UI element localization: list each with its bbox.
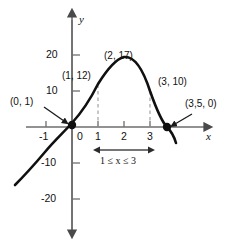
pointer-arrow-origin (44, 107, 64, 121)
y-tick-label-neg10: -10 (41, 157, 56, 168)
x-tick-label-neg1: -1 (39, 131, 48, 142)
range-annotation-label: 1 ≤ x ≤ 3 (100, 155, 136, 166)
point-marker-x-intercept (163, 123, 171, 131)
y-tick-label-neg20: -20 (41, 193, 56, 204)
x-tick-label-2: 2 (121, 131, 127, 142)
point-label-1-12: (1, 12) (62, 70, 91, 81)
point-label-2-17: (2, 17) (104, 50, 133, 61)
y-axis-label: y (79, 14, 84, 25)
point-marker-origin (68, 121, 76, 129)
y-tick-label-20: 20 (46, 49, 58, 60)
y-tick-label-10: 10 (46, 85, 58, 96)
graph-figure: y x -1 0 1 2 3 20 10 -10 -20 (0, 1) (1, … (0, 0, 238, 242)
x-tick-label-0: 0 (77, 131, 83, 142)
curve-path (15, 57, 176, 185)
x-axis-label: x (206, 131, 211, 142)
pointer-arrow-x-intercept (175, 114, 192, 124)
x-tick-label-3: 3 (147, 131, 153, 142)
point-label-0-1: (0, 1) (10, 96, 33, 107)
x-tick-label-1: 1 (95, 131, 101, 142)
point-label-3-10: (3, 10) (158, 76, 187, 87)
plot-canvas (0, 0, 238, 242)
point-label-35-0: (3,5, 0) (185, 98, 217, 109)
